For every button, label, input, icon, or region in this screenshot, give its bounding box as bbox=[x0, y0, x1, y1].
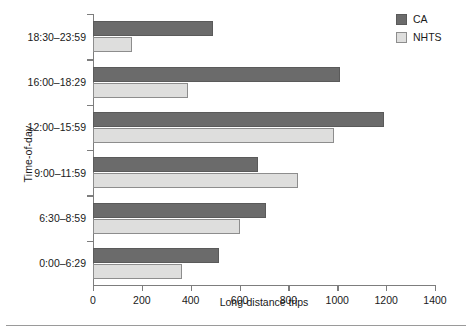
y-axis-tick-label: 6:30–8:59 bbox=[39, 212, 86, 224]
bar-ca bbox=[93, 203, 266, 218]
plot-area: 0:00–6:296:30–8:599:00–11:5912:00–15:591… bbox=[93, 14, 435, 286]
x-axis-line bbox=[93, 285, 435, 286]
bar-ca bbox=[93, 112, 384, 127]
x-axis-tick bbox=[288, 285, 289, 291]
footer-rule bbox=[6, 325, 466, 326]
legend-item-ca: CA bbox=[396, 10, 442, 28]
x-axis-tick bbox=[93, 285, 94, 291]
bar-ca bbox=[93, 157, 258, 172]
light-gray-swatch-icon bbox=[396, 32, 407, 43]
legend-label-nhts: NHTS bbox=[413, 31, 442, 43]
x-axis-tick bbox=[435, 285, 436, 291]
bar-chart-figure: Time-of-day 0:00–6:296:30–8:599:00–11:59… bbox=[0, 0, 472, 334]
bar-nhts bbox=[93, 219, 240, 234]
y-axis-tick bbox=[87, 59, 93, 60]
y-axis-tick-label: 9:00–11:59 bbox=[34, 167, 86, 179]
y-axis-tick bbox=[87, 105, 93, 106]
y-axis-tick-label: 16:00–18:29 bbox=[28, 76, 86, 88]
x-axis-tick bbox=[337, 285, 338, 291]
y-axis-tick bbox=[87, 150, 93, 151]
bar-ca bbox=[93, 67, 340, 82]
y-axis-tick bbox=[87, 241, 93, 242]
bar-nhts bbox=[93, 83, 188, 98]
legend-label-ca: CA bbox=[413, 13, 428, 25]
y-axis-line bbox=[93, 14, 94, 286]
bar-ca bbox=[93, 248, 219, 263]
bar-nhts bbox=[93, 128, 334, 143]
legend-item-nhts: NHTS bbox=[396, 28, 442, 46]
y-axis-tick-label: 12:00–15:59 bbox=[28, 121, 86, 133]
x-axis-tick bbox=[191, 285, 192, 291]
x-axis-tick bbox=[142, 285, 143, 291]
chart-legend: CA NHTS bbox=[396, 10, 442, 46]
x-axis-tick bbox=[240, 285, 241, 291]
y-axis-tick-label: 18:30–23:59 bbox=[28, 31, 86, 43]
x-axis-tick bbox=[386, 285, 387, 291]
bar-nhts bbox=[93, 264, 182, 279]
dark-gray-swatch-icon bbox=[396, 14, 407, 25]
y-axis-title: Time-of-day bbox=[22, 94, 34, 214]
bar-nhts bbox=[93, 37, 132, 52]
y-axis-tick bbox=[87, 195, 93, 196]
y-axis-tick bbox=[87, 14, 93, 15]
y-axis-tick-label: 0:00–6:29 bbox=[39, 257, 86, 269]
bar-ca bbox=[93, 21, 213, 36]
x-axis-title: Long-distance trips bbox=[93, 296, 435, 308]
bar-nhts bbox=[93, 173, 298, 188]
